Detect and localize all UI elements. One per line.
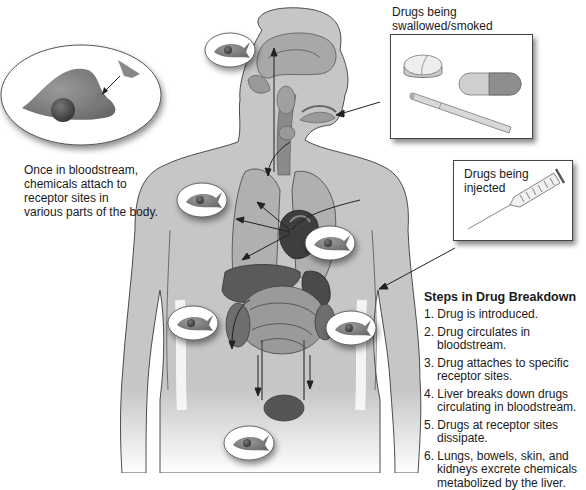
receptor-callout: Once in bloodstream, chemicals attach to…: [24, 163, 194, 219]
step-item: 3. Drug attaches to specific receptor si…: [424, 357, 586, 384]
swallowed-box: [390, 34, 533, 139]
step-item: 2. Drug circulates in bloodstream.: [424, 326, 586, 353]
swallowed-callout-label: Drugs being swallowed/smoked: [392, 5, 493, 33]
syringe-icon: [468, 169, 564, 229]
step-item: 4. Liver breaks down drugs circulating i…: [424, 388, 586, 415]
receptor-callout-line: chemicals attach to: [24, 177, 194, 191]
steps-title: Steps in Drug Breakdown: [424, 290, 586, 304]
pill-icon: [404, 55, 442, 78]
receptor-site-chest: [305, 226, 355, 260]
capsule-icon: [459, 73, 521, 95]
swallowed-label-line: Drugs being: [392, 5, 493, 19]
receptor-site-abdomen-right: [326, 311, 376, 345]
receptor-detail-oval: [1, 45, 161, 145]
receptor-callout-line: receptor sites in: [24, 191, 194, 205]
injected-box: Drugs being injected: [453, 160, 573, 241]
receptor-site-abdomen-left: [168, 306, 218, 340]
step-item: 5. Drugs at receptor sites dissipate.: [424, 419, 586, 446]
receptor-callout-line: Once in bloodstream,: [24, 163, 194, 177]
step-item: 6. Lungs, bowels, skin, and kidneys excr…: [424, 450, 586, 490]
step-item: 1. Drug is introduced.: [424, 308, 586, 322]
receptor-site-head: [205, 33, 255, 67]
steps-list: 1. Drug is introduced. 2. Drug circulate…: [424, 308, 586, 490]
receptor-site-pelvis: [224, 426, 274, 460]
cigarette-icon: [410, 93, 512, 134]
receptor-callout-line: various parts of the body.: [24, 205, 194, 219]
steps-panel: Steps in Drug Breakdown 1. Drug is intro…: [424, 290, 586, 490]
swallowed-label-line: swallowed/smoked: [392, 19, 493, 33]
